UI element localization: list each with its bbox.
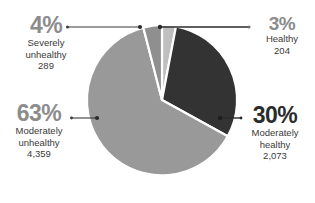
callout-value-moderately-healthy: 2,073: [238, 150, 312, 162]
callout-percent-moderately-unhealthy: 63%: [0, 102, 78, 125]
callout-label-moderately-healthy-line1: Moderately: [238, 127, 312, 139]
callout-moderately-healthy[interactable]: 30% Moderately healthy 2,073: [238, 104, 312, 162]
pie-chart-figure: 4% Severely unhealthy 289 3% Healthy 204…: [0, 0, 315, 203]
callout-moderately-unhealthy[interactable]: 63% Moderately unhealthy 4,359: [0, 102, 78, 160]
callout-percent-healthy: 3%: [252, 14, 312, 33]
callout-label-severely-unhealthy-line1: Severely: [2, 37, 90, 49]
callout-label-moderately-healthy-line2: healthy: [238, 139, 312, 151]
callout-label-moderately-unhealthy-line2: unhealthy: [0, 137, 78, 149]
callout-label-severely-unhealthy-line2: unhealthy: [2, 49, 90, 61]
callout-percent-severely-unhealthy: 4%: [2, 14, 90, 37]
callout-label-healthy-line1: Healthy: [252, 33, 312, 45]
callout-healthy[interactable]: 3% Healthy 204: [252, 14, 312, 56]
callout-value-severely-unhealthy: 289: [2, 60, 90, 72]
callout-percent-moderately-healthy: 30%: [238, 104, 312, 127]
callout-severely-unhealthy[interactable]: 4% Severely unhealthy 289: [2, 14, 90, 72]
callout-value-healthy: 204: [252, 45, 312, 57]
callout-value-moderately-unhealthy: 4,359: [0, 148, 78, 160]
callout-label-moderately-unhealthy-line1: Moderately: [0, 125, 78, 137]
